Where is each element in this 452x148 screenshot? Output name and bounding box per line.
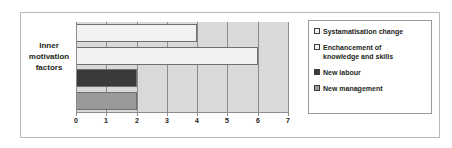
- x-tick: [106, 112, 107, 116]
- bar-new-labour: [76, 69, 137, 87]
- legend-swatch-icon: [314, 69, 320, 75]
- legend-swatch-icon: [314, 28, 320, 34]
- legend-item-label: Enchancement of knowledge and skills: [323, 43, 393, 61]
- x-tick-label: 3: [158, 117, 176, 124]
- gridline: [288, 22, 289, 112]
- gridline: [197, 22, 198, 112]
- legend-item-label: New management: [323, 84, 383, 93]
- gridline: [227, 22, 228, 112]
- legend-item-new-management[interactable]: New management: [314, 84, 426, 93]
- x-tick: [76, 112, 77, 116]
- x-tick: [197, 112, 198, 116]
- category-label-line-1: Inner: [24, 40, 74, 51]
- legend-item-new-labour[interactable]: New labour: [314, 68, 426, 77]
- x-tick: [137, 112, 138, 116]
- legend-swatch-icon: [314, 44, 320, 50]
- bar-new-management: [76, 92, 137, 110]
- category-label-line-3: factors: [24, 62, 74, 73]
- chart-legend: Systamatisation change Enchancement of k…: [308, 20, 432, 114]
- x-tick-label: 2: [128, 117, 146, 124]
- x-tick-label: 4: [188, 117, 206, 124]
- x-tick-label: 0: [67, 117, 85, 124]
- legend-item-label: Systamatisation change: [323, 27, 403, 36]
- x-tick: [227, 112, 228, 116]
- bar-systamatisation-change: [76, 24, 197, 42]
- x-tick-label: 7: [279, 117, 297, 124]
- legend-item-enchancement-of-knowledge-and-skills[interactable]: Enchancement of knowledge and skills: [314, 43, 426, 61]
- legend-swatch-icon: [314, 85, 320, 91]
- chart-figure: Inner motivation factors Systamatisation…: [0, 0, 452, 148]
- legend-item-systamatisation-change[interactable]: Systamatisation change: [314, 27, 426, 36]
- x-tick: [288, 112, 289, 116]
- legend-item-label: New labour: [323, 68, 361, 77]
- x-tick-label: 1: [97, 117, 115, 124]
- legend-item-label-line-1: Enchancement of: [323, 44, 381, 51]
- plot-area: [76, 22, 288, 112]
- x-tick-label: 5: [218, 117, 236, 124]
- category-axis-label: Inner motivation factors: [24, 40, 74, 73]
- x-tick-label: 6: [249, 117, 267, 124]
- legend-item-label-line-2: knowledge and skills: [323, 53, 393, 60]
- category-label-line-2: motivation: [24, 51, 74, 62]
- gridline: [258, 22, 259, 112]
- x-tick: [167, 112, 168, 116]
- bar-enchancement-of-knowledge-and-skills: [76, 47, 258, 65]
- x-tick: [258, 112, 259, 116]
- y-axis-line: [76, 22, 77, 114]
